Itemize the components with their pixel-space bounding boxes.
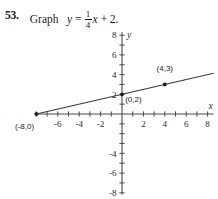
problem-header: 53. Graph y = 1 4 x + 2 . (0, 0, 218, 30)
plus-sign: + (98, 14, 110, 26)
y-tick-label: 8 (112, 30, 117, 40)
x-tick-label: -6 (54, 119, 62, 129)
y-axis-name: y (126, 30, 132, 40)
y-tick-label: -8 (109, 188, 117, 198)
plotted-line-group (36, 73, 213, 114)
x-tick-label: 4 (163, 119, 168, 129)
y-tick-label: 6 (112, 50, 117, 60)
point-marker (35, 112, 39, 116)
fraction-numerator: 1 (85, 10, 92, 20)
equals-sign: = (73, 14, 85, 26)
y-tick-label: -4 (109, 149, 117, 159)
point-label: (0,2) (125, 95, 142, 104)
point-label: (4,3) (157, 64, 174, 73)
graph-svg: -6-4-224688642-4-6-8 (-8,0)(0,2)(4,3) xy (0, 28, 218, 199)
fraction-one-fourth: 1 4 (85, 10, 92, 30)
problem-number: 53. (0, 4, 19, 22)
y-tick-label: 4 (112, 70, 117, 80)
point-marker (120, 92, 124, 96)
plotted-points-group: (-8,0)(0,2)(4,3) (15, 64, 173, 131)
y-tick-label: 2 (112, 90, 117, 100)
instruction-text: Graph (30, 14, 59, 26)
x-tick-label: 8 (205, 119, 210, 129)
x-axis-name: x (207, 101, 213, 111)
end-period: . (115, 14, 118, 26)
x-tick-label: -2 (97, 119, 105, 129)
x-tick-label: -4 (75, 119, 83, 129)
point-label: (-8,0) (15, 122, 34, 131)
plotted-line (36, 73, 213, 114)
y-tick-label: -6 (109, 168, 117, 178)
axes-group (34, 32, 213, 195)
x-tick-label: 2 (141, 119, 146, 129)
coordinate-graph-figure: -6-4-224688642-4-6-8 (-8,0)(0,2)(4,3) xy (0, 28, 218, 199)
point-marker (163, 83, 167, 87)
problem-statement: Graph y = 1 4 x + 2 . (19, 4, 118, 30)
x-tick-label: 6 (184, 119, 189, 129)
